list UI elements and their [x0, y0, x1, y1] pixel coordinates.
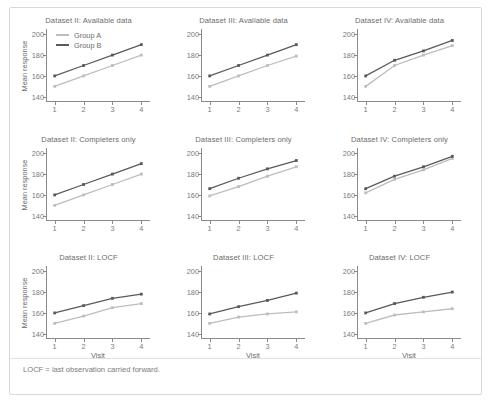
y-axis-tick-label: 200 [187, 30, 199, 39]
series-line-group-a [55, 304, 142, 324]
x-axis-tick-label: 1 [364, 224, 368, 233]
x-axis-tick-label: 2 [236, 105, 240, 114]
data-point-marker [393, 178, 396, 181]
legend-swatch-icon [56, 34, 69, 36]
panel-title: Dataset II: LOCF [10, 253, 167, 262]
plot-area: 1401601802001234 [46, 266, 150, 339]
data-point-marker [295, 165, 298, 168]
x-axis-tick-label: 2 [392, 342, 396, 351]
chart-panel: Dataset IV: Completers only1401601802001… [321, 133, 478, 250]
series-layer [357, 29, 461, 102]
legend-label: Group A [74, 31, 101, 40]
y-axis-tick-label: 140 [32, 329, 44, 338]
series-line-group-b [366, 156, 453, 188]
data-point-marker [451, 291, 454, 294]
data-point-marker [422, 54, 425, 57]
y-axis-tick-label: 160 [343, 190, 355, 199]
data-point-marker [364, 75, 367, 78]
chart-panel: Dataset II: Completers only1401601802001… [10, 133, 167, 250]
chart-panel: Dataset II: Available data14016018020012… [10, 14, 167, 131]
series-line-group-b [55, 294, 142, 313]
x-axis-tick-label: 3 [421, 224, 425, 233]
x-axis-tick-label: 2 [81, 224, 85, 233]
y-axis-tick-label: 180 [32, 170, 44, 179]
data-point-marker [237, 177, 240, 180]
series-line-group-b [366, 40, 453, 75]
data-point-marker [140, 54, 143, 57]
x-axis-tick-label: 1 [364, 342, 368, 351]
data-point-marker [140, 162, 143, 165]
data-point-marker [237, 75, 240, 78]
y-axis-tick-label: 180 [343, 170, 355, 179]
x-axis-tick-label: 2 [392, 105, 396, 114]
y-axis-tick-label: 180 [343, 51, 355, 60]
x-axis-tick-label: 3 [421, 105, 425, 114]
legend-swatch-icon [56, 44, 69, 46]
data-point-marker [422, 296, 425, 299]
data-point-marker [393, 175, 396, 178]
data-point-marker [295, 55, 298, 58]
y-axis-tick-label: 180 [187, 170, 199, 179]
panel-title: Dataset III: Available data [165, 16, 322, 25]
data-point-marker [451, 39, 454, 42]
data-point-marker [451, 44, 454, 47]
data-point-marker [208, 187, 211, 190]
data-point-marker [295, 292, 298, 295]
y-axis-tick-label: 180 [187, 288, 199, 297]
x-axis-tick-label: 3 [110, 105, 114, 114]
data-point-marker [393, 302, 396, 305]
y-axis-tick-label: 160 [343, 308, 355, 317]
series-line-group-b [210, 293, 297, 314]
data-point-marker [266, 54, 269, 57]
series-layer [201, 148, 305, 221]
y-axis-tick-label: 140 [187, 92, 199, 101]
x-axis-tick-label: 4 [139, 105, 143, 114]
panel-grid: Dataset II: Available data14016018020012… [10, 8, 483, 360]
panel-title: Dataset II: Available data [10, 16, 167, 25]
data-point-marker [295, 310, 298, 313]
panel-title: Dataset III: LOCF [165, 253, 322, 262]
data-point-marker [82, 194, 85, 197]
series-line-group-a [366, 158, 453, 192]
y-axis-title: Mean response [20, 41, 29, 92]
data-point-marker [266, 167, 269, 170]
x-axis-tick-label: 4 [294, 105, 298, 114]
data-point-marker [393, 59, 396, 62]
data-point-marker [237, 185, 240, 188]
data-point-marker [111, 183, 114, 186]
x-axis-tick-label: 1 [53, 224, 57, 233]
y-axis-tick-label: 200 [32, 267, 44, 276]
y-axis-tick-label: 140 [187, 329, 199, 338]
x-axis-tick-label: 4 [139, 342, 143, 351]
x-axis-tick-label: 4 [139, 224, 143, 233]
data-point-marker [140, 43, 143, 46]
data-point-marker [393, 64, 396, 67]
x-axis-tick-label: 3 [265, 224, 269, 233]
data-point-marker [111, 297, 114, 300]
data-point-marker [208, 313, 211, 316]
plot-area: 1401601802001234 [46, 148, 150, 221]
data-point-marker [364, 191, 367, 194]
data-point-marker [295, 43, 298, 46]
data-point-marker [393, 314, 396, 317]
data-point-marker [422, 310, 425, 313]
y-axis-tick-label: 200 [343, 30, 355, 39]
data-point-marker [53, 204, 56, 207]
y-axis-tick-label: 180 [32, 288, 44, 297]
y-axis-tick-label: 160 [187, 190, 199, 199]
data-point-marker [364, 85, 367, 88]
data-point-marker [53, 75, 56, 78]
x-axis-tick-label: 3 [265, 105, 269, 114]
chart-panel: Dataset III: Available data1401601802001… [165, 14, 322, 131]
data-point-marker [82, 304, 85, 307]
data-point-marker [53, 85, 56, 88]
data-point-marker [266, 313, 269, 316]
data-point-marker [422, 50, 425, 53]
x-axis-tick-label: 2 [81, 105, 85, 114]
data-point-marker [111, 173, 114, 176]
data-point-marker [451, 155, 454, 158]
chart-panel: Dataset II: LOCF1401601802001234Mean res… [10, 251, 167, 368]
y-axis-tick-label: 200 [187, 267, 199, 276]
plot-area: 1401601802001234 [201, 266, 305, 339]
chart-panel: Dataset III: LOCF1401601802001234Visit [165, 251, 322, 368]
